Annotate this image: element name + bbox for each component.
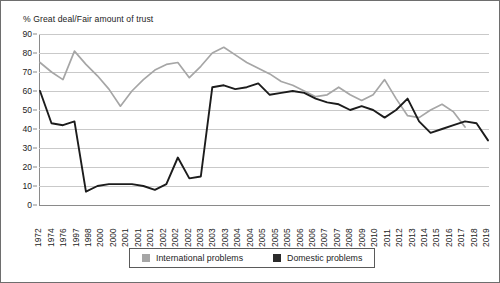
x-tick-label: 2013	[408, 228, 417, 247]
y-tick-label: 40	[22, 124, 32, 134]
series-layer	[40, 47, 488, 191]
legend-swatch-international	[142, 254, 150, 262]
legend-item-international[interactable]: International problems	[142, 253, 243, 263]
x-tick-label: 2007	[333, 228, 342, 247]
x-tick-label: 2018	[470, 228, 479, 247]
x-tick-label: 1997	[72, 228, 81, 247]
y-tick-mark	[33, 148, 37, 149]
x-tick-label: 1998	[84, 228, 93, 247]
x-tick-label: 2005	[283, 228, 292, 247]
gridlines	[39, 34, 489, 186]
y-tick-mark	[33, 34, 37, 35]
y-tick-label: 10	[22, 181, 32, 191]
x-tick-label: 2004	[246, 228, 255, 247]
y-tick-label: 70	[22, 67, 32, 77]
x-tick-label: 1974	[47, 228, 56, 247]
x-tick-label: 1976	[59, 228, 68, 247]
series-line-international	[40, 47, 465, 127]
x-tick-label: 2006	[308, 228, 317, 247]
x-tick-label: 2016	[445, 228, 454, 247]
y-tick-label: 60	[22, 86, 32, 96]
x-tick-label: 2001	[121, 228, 130, 247]
y-tick-label: 80	[22, 48, 32, 58]
chart-figure: % Great deal/Fair amount of trust 010203…	[0, 0, 500, 283]
y-tick-label: 50	[22, 105, 32, 115]
x-tick-label: 2001	[134, 228, 143, 247]
x-tick-label: 2000	[109, 228, 118, 247]
chart-title: % Great deal/Fair amount of trust	[23, 14, 153, 24]
x-tick-label: 2003	[221, 228, 230, 247]
y-tick-mark	[33, 186, 37, 187]
x-tick-label: 1972	[34, 228, 43, 247]
plot-area	[39, 34, 489, 205]
x-tick-label: 2009	[358, 228, 367, 247]
y-tick-mark	[33, 91, 37, 92]
x-tick-label: 2019	[482, 228, 491, 247]
legend-swatch-domestic	[273, 254, 281, 262]
y-tick-label: 90	[22, 29, 32, 39]
y-tick-mark	[33, 205, 37, 206]
x-tick-label: 2002	[159, 228, 168, 247]
y-tick-label: 20	[22, 162, 32, 172]
x-tick-label: 2011	[383, 229, 392, 247]
x-axis-line	[39, 205, 490, 206]
legend-item-domestic[interactable]: Domestic problems	[273, 253, 362, 263]
y-axis: 0102030405060708090	[13, 34, 37, 205]
x-tick-label: 2014	[420, 228, 429, 247]
x-tick-label: 2015	[432, 228, 441, 247]
plot-svg	[39, 34, 489, 205]
x-tick-label: 2004	[233, 228, 242, 247]
x-tick-label: 2008	[345, 228, 354, 247]
y-tick-mark	[33, 129, 37, 130]
x-tick-label: 2002	[184, 228, 193, 247]
y-tick-label: 30	[22, 143, 32, 153]
x-tick-label: 2002	[171, 228, 180, 247]
x-tick-label: 2017	[457, 228, 466, 247]
y-tick-label: 0	[27, 200, 32, 210]
x-tick-label: 2006	[296, 228, 305, 247]
x-tick-label: 2010	[370, 228, 379, 247]
legend-label-domestic: Domestic problems	[287, 253, 362, 263]
y-tick-mark	[33, 167, 37, 168]
chart-legend: International problems Domestic problems	[129, 248, 375, 268]
x-tick-label: 2001	[146, 228, 155, 247]
x-tick-label: 2005	[258, 228, 267, 247]
x-tick-label: 2000	[96, 228, 105, 247]
x-tick-label: 2007	[320, 228, 329, 247]
x-tick-label: 2003	[208, 228, 217, 247]
series-line-domestic	[40, 83, 488, 191]
x-tick-label: 2005	[271, 228, 280, 247]
y-tick-mark	[33, 110, 37, 111]
x-tick-label: 2003	[196, 228, 205, 247]
y-tick-mark	[33, 53, 37, 54]
y-tick-mark	[33, 72, 37, 73]
x-axis: 1972197419761997199820002000200120012001…	[39, 207, 489, 247]
legend-label-international: International problems	[156, 253, 243, 263]
x-tick-label: 2012	[395, 228, 404, 247]
